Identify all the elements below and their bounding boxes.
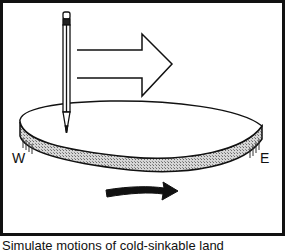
figure-caption: Simulate motions of cold-sinkable land [2,239,224,250]
diagram-figure [0,0,285,250]
east-label: E [260,151,269,165]
west-label: W [12,151,25,165]
pencil-icon [63,12,70,133]
